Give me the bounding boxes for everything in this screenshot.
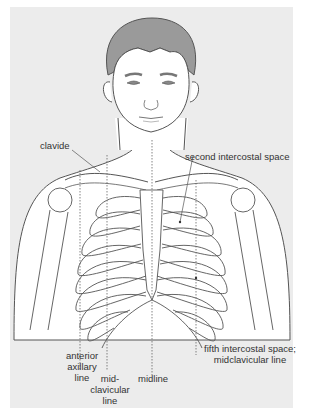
label-fifth-intercostal-space: fifth intercostal space; midclavicular l…	[200, 343, 300, 365]
label-midline: midline	[138, 373, 168, 384]
right-ear	[190, 82, 199, 102]
label-second-intercostal-space: second intercostal space	[185, 151, 290, 162]
label-midclavicular-line: mid- clavicular line	[88, 373, 132, 406]
label-clavicle: clavide	[40, 140, 70, 151]
clavicle-pointer	[72, 150, 100, 172]
left-ear	[103, 82, 112, 102]
